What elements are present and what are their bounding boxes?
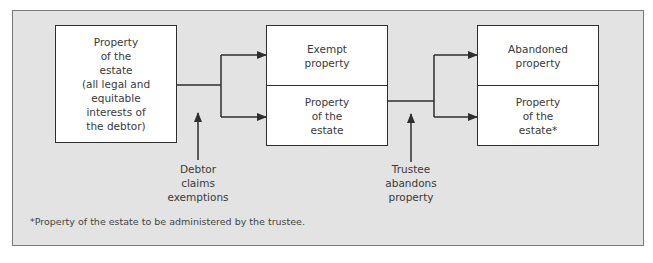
node-label: Property of the estate (all legal and eq…	[82, 35, 150, 133]
action-debtor-claims-exemptions: Debtor claims exemptions	[160, 162, 236, 204]
node-label: Property of the estate*	[516, 95, 560, 137]
node-property-of-estate-2: Property of the estate	[266, 85, 388, 146]
node-property-of-estate-3: Property of the estate*	[477, 85, 599, 146]
node-abandoned-property: Abandoned property	[477, 25, 599, 87]
node-label: Property of the estate	[305, 95, 349, 137]
node-property-of-estate: Property of the estate (all legal and eq…	[55, 25, 177, 143]
node-exempt-property: Exempt property	[266, 25, 388, 87]
action-trustee-abandons-property: Trustee abandons property	[373, 162, 449, 204]
footnote: *Property of the estate to be administer…	[30, 216, 305, 227]
node-label: Abandoned property	[508, 42, 568, 70]
node-label: Exempt property	[305, 42, 350, 70]
